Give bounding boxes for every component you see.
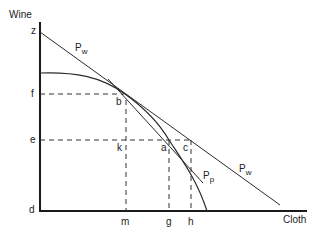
- point-b-label: b: [116, 97, 122, 107]
- point-g-label: g: [166, 217, 172, 227]
- pw-label-right: Pw: [239, 164, 251, 174]
- point-d-label: d: [29, 205, 35, 215]
- pw-label-top: Pw: [75, 43, 87, 53]
- diagram-canvas: [0, 0, 322, 238]
- cloth-axis-label: Cloth: [283, 215, 306, 225]
- point-a-label: a: [161, 143, 167, 153]
- point-m-label: m: [121, 217, 129, 227]
- point-z-label: z: [31, 26, 36, 36]
- point-c-label: c: [183, 143, 188, 153]
- pp-label: Pp: [203, 171, 214, 181]
- wine-axis-label: Wine: [9, 10, 32, 20]
- point-h-label: h: [188, 217, 194, 227]
- pp-line: [108, 79, 203, 183]
- point-k-label: k: [117, 143, 122, 153]
- ppf-curve: [40, 73, 207, 211]
- point-f-label: f: [31, 89, 34, 99]
- point-e-label: e: [30, 135, 36, 145]
- pw-line: [40, 32, 280, 205]
